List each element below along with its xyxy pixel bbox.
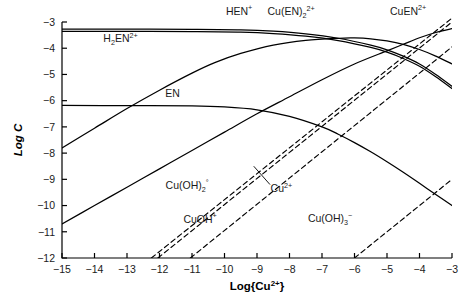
cu2plus-leader bbox=[254, 166, 270, 184]
y-tick-label: −9 bbox=[43, 173, 55, 185]
x-tick-label: −12 bbox=[151, 263, 169, 275]
curve-cuoh- bbox=[190, 47, 452, 258]
y-axis-title: Log C bbox=[12, 123, 24, 156]
x-tick-label: −3 bbox=[446, 263, 458, 275]
x-tick-label: −15 bbox=[53, 263, 71, 275]
curve-label-en: EN bbox=[165, 87, 180, 99]
curve-cu-oh-3- bbox=[355, 179, 453, 258]
x-tick-label: −4 bbox=[414, 263, 426, 275]
y-tick-label: −11 bbox=[38, 226, 55, 238]
curve-cu-en-2-2- bbox=[62, 29, 452, 224]
curve-label-h2en2-: H2EN2+ bbox=[103, 31, 137, 47]
y-tick-label: −5 bbox=[43, 68, 55, 80]
x-tick-label: −5 bbox=[381, 263, 393, 275]
curve-label-cu-oh-2-0: Cu(OH)2° bbox=[166, 178, 209, 194]
x-tick-label: −11 bbox=[183, 263, 200, 275]
curve-label-cuen2-: CuEN2+ bbox=[390, 3, 426, 16]
speciation-chart: −3−4−5−6−7−8−9−10−11−12−15−14−13−12−11−1… bbox=[0, 0, 476, 300]
x-tick-label: −7 bbox=[316, 263, 328, 275]
x-tick-label: −9 bbox=[251, 263, 263, 275]
x-tick-label: −14 bbox=[86, 263, 104, 275]
y-tick-label: −3 bbox=[43, 16, 55, 28]
curve-label-cu-en-2-2-: Cu(EN)22+ bbox=[268, 4, 315, 20]
curve-label-cu-oh-3-: Cu(OH)3− bbox=[308, 211, 352, 227]
x-tick-label: −6 bbox=[349, 263, 361, 275]
curves-group bbox=[62, 18, 452, 258]
curve-label-cu2-: Cu2+ bbox=[271, 181, 293, 194]
x-tick-label: −8 bbox=[284, 263, 296, 275]
chart-canvas: −3−4−5−6−7−8−9−10−11−12−15−14−13−12−11−1… bbox=[0, 0, 476, 300]
y-tick-label: −6 bbox=[43, 94, 55, 106]
y-tick-label: −7 bbox=[43, 121, 55, 133]
y-tick-label: −10 bbox=[37, 199, 55, 211]
x-tick-label: −10 bbox=[216, 263, 234, 275]
y-tick-label: −12 bbox=[37, 252, 55, 264]
x-axis-title: Log{Cu2+} bbox=[230, 279, 285, 292]
axis-frame bbox=[62, 22, 452, 258]
curve-label-cuoh-: CuOH+ bbox=[183, 211, 216, 224]
curve-label-hen-: HEN+ bbox=[226, 3, 252, 16]
y-tick-label: −8 bbox=[43, 147, 55, 159]
x-tick-label: −13 bbox=[118, 263, 136, 275]
y-tick-label: −4 bbox=[43, 42, 55, 54]
